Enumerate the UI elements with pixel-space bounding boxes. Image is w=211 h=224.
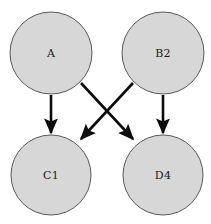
node-c1[interactable]: C1 bbox=[11, 135, 91, 215]
edges-layer bbox=[51, 83, 163, 139]
node-d4[interactable]: D4 bbox=[123, 135, 203, 215]
graph-canvas-svg: AB2C1D4 bbox=[0, 0, 211, 224]
node-b2[interactable]: B2 bbox=[122, 12, 204, 94]
graph-diagram: AB2C1D4 bbox=[0, 0, 211, 224]
node-label-c1: C1 bbox=[43, 169, 59, 182]
node-label-b2: B2 bbox=[155, 47, 171, 60]
node-label-a: A bbox=[46, 47, 56, 60]
node-label-d4: D4 bbox=[155, 169, 171, 182]
node-a[interactable]: A bbox=[10, 12, 92, 94]
nodes-layer: AB2C1D4 bbox=[10, 12, 204, 215]
